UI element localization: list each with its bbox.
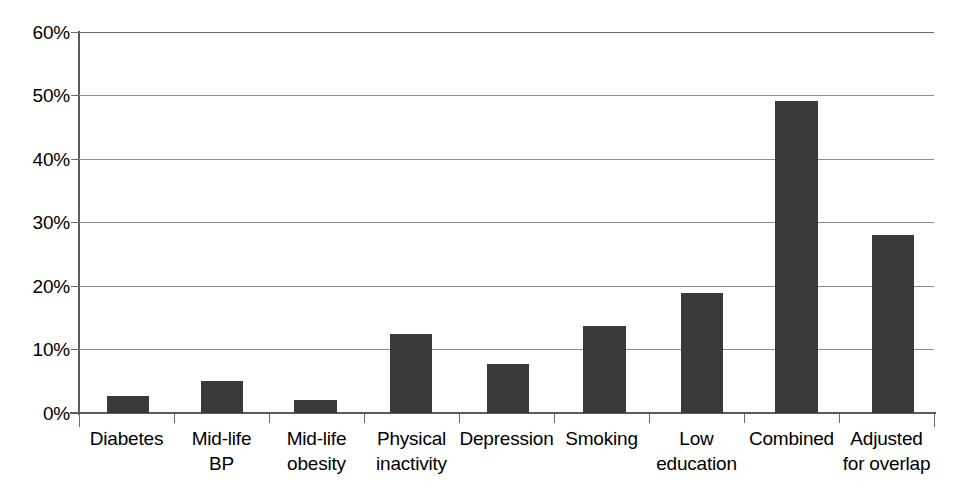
x-tick-1	[174, 414, 175, 423]
x-label-line1: Smoking	[554, 426, 649, 451]
x-label-low-education: Low education	[649, 426, 744, 476]
x-tick-6	[649, 414, 650, 423]
x-tick-7	[744, 414, 745, 423]
x-label-line1: Mid-life	[174, 426, 269, 451]
x-label-line1: Adjusted	[839, 426, 934, 451]
x-label-line1: Depression	[459, 426, 554, 451]
x-label-physical-inactivity: Physical inactivity	[364, 426, 459, 476]
x-tick-4	[459, 414, 460, 423]
x-label-line2: for overlap	[839, 451, 934, 476]
x-label-mid-life-obesity: Mid-life obesity	[269, 426, 364, 476]
x-label-line1: Low	[649, 426, 744, 451]
x-label-line2: BP	[174, 451, 269, 476]
x-label-smoking: Smoking	[554, 426, 649, 451]
x-label-line1: Diabetes	[79, 426, 174, 451]
x-label-diabetes: Diabetes	[79, 426, 174, 451]
x-label-line1: Physical	[364, 426, 459, 451]
x-label-line2: obesity	[269, 451, 364, 476]
bar-chart: 60% 50% 40% 30% 20% 10% 0%	[0, 0, 963, 489]
x-label-adjusted-for-overlap: Adjusted for overlap	[839, 426, 934, 476]
x-tick-8	[839, 414, 840, 423]
x-label-depression: Depression	[459, 426, 554, 451]
x-label-mid-life-bp: Mid-life BP	[174, 426, 269, 476]
x-label-line2: inactivity	[364, 451, 459, 476]
x-tick-5	[554, 414, 555, 423]
x-label-combined: Combined	[744, 426, 839, 451]
x-tick-3	[364, 414, 365, 423]
x-label-line2: education	[649, 451, 744, 476]
x-label-line1: Combined	[744, 426, 839, 451]
x-axis-labels: Diabetes Mid-life BP Mid-life obesity Ph…	[0, 426, 963, 488]
x-label-line1: Mid-life	[269, 426, 364, 451]
x-axis-ticks	[0, 0, 963, 489]
x-tick-2	[269, 414, 270, 423]
